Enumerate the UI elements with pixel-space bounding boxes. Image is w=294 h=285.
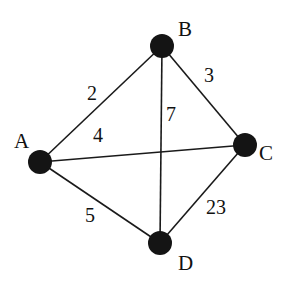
edge-a-d — [40, 162, 160, 243]
node-d — [148, 231, 172, 255]
node-a — [28, 150, 52, 174]
edge-c-d — [160, 145, 245, 243]
nodes-layer — [28, 34, 257, 255]
weighted-graph-diagram: 2 3 7 4 5 23 A B C D — [0, 0, 294, 285]
weight-label-a-d: 5 — [85, 204, 95, 226]
weight-label-a-b: 2 — [87, 82, 97, 104]
weight-label-c-d: 23 — [206, 196, 226, 218]
node-label-a: A — [14, 129, 30, 153]
weight-label-b-d: 7 — [166, 103, 176, 125]
weight-label-b-c: 3 — [204, 64, 214, 86]
node-b — [150, 34, 174, 58]
node-c — [233, 133, 257, 157]
node-label-d: D — [178, 251, 193, 275]
edge-b-c — [162, 46, 245, 145]
weight-label-a-c: 4 — [93, 124, 103, 146]
node-label-c: C — [259, 141, 273, 165]
edge-weights-layer: 2 3 7 4 5 23 — [85, 64, 226, 226]
node-label-b: B — [178, 17, 192, 41]
edge-b-d — [160, 46, 162, 243]
edge-a-c — [40, 145, 245, 162]
